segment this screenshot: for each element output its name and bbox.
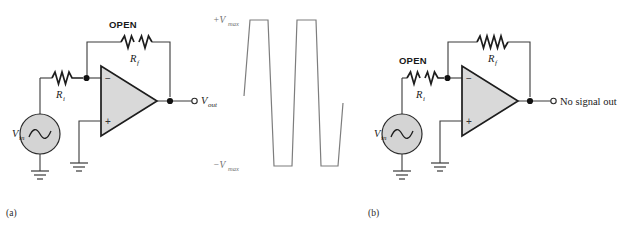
waveform-trace (244, 20, 343, 166)
feedback-wire-right-b (508, 42, 530, 97)
noninverting-input-sign-b: + (466, 116, 472, 127)
noninverting-input-wire-a (79, 121, 101, 163)
caption-b: (b) (368, 208, 379, 219)
output-node-dot-a (167, 98, 173, 104)
ground-symbol-source-b (393, 171, 411, 179)
output-label-b: No signal out (560, 96, 617, 107)
feedback-resistor-zigzag-right (139, 36, 152, 48)
ground-symbol-source-a (31, 171, 49, 179)
ground-symbol-opamp-b (431, 163, 449, 171)
feedback-resistor-label-a: R (129, 53, 137, 64)
feedback-resistor-zigzag-left (121, 36, 134, 48)
output-terminal-b (551, 98, 556, 103)
output-terminal-a (192, 98, 197, 103)
input-resistor-label-b: R (415, 89, 423, 100)
feedback-wire-right (152, 42, 170, 97)
waveform-bottom-label: −V (213, 160, 226, 170)
input-resistor-sub-b: i (423, 95, 425, 103)
ground-symbol-opamp-a (70, 163, 88, 171)
output-waveform: +V max −V max (213, 15, 343, 172)
waveform-bottom-label-sub: max (228, 165, 239, 172)
caption-a: (a) (6, 208, 17, 219)
output-node-dot-b (527, 98, 533, 104)
input-resistor-zigzag-right-b (425, 72, 444, 84)
panel-b: R f OPEN R i − + No signal out (368, 36, 617, 219)
waveform-top-label: +V (213, 15, 226, 25)
waveform-top-label-sub: max (228, 20, 239, 27)
input-resistor-label-a: R (55, 89, 63, 100)
feedback-resistor-zigzag-b (477, 36, 508, 48)
source-sub-a: in (19, 134, 25, 142)
output-sub-a: out (208, 101, 218, 109)
noninverting-input-wire-b (440, 121, 462, 163)
inverting-input-sign-b: − (466, 73, 472, 84)
inverting-node-dot-b (444, 75, 450, 81)
noninverting-input-sign-a: + (105, 116, 111, 127)
input-resistor-zigzag-left-b (407, 72, 420, 84)
inverting-node-dot-a (83, 75, 89, 81)
open-label-a: OPEN (109, 19, 137, 30)
open-label-b: OPEN (399, 55, 427, 66)
input-resistor-zigzag-a (52, 72, 83, 84)
feedback-resistor-sub-b: f (495, 59, 498, 67)
feedback-resistor-sub-a: f (137, 59, 140, 67)
circuit-figure: OPEN R f R i − + V out (0, 0, 640, 239)
panel-a: OPEN R f R i − + V out (6, 19, 218, 219)
source-sub-b: in (381, 134, 387, 142)
input-resistor-sub-a: i (63, 95, 65, 103)
feedback-resistor-label-b: R (487, 53, 495, 64)
inverting-input-sign-a: − (105, 73, 111, 84)
